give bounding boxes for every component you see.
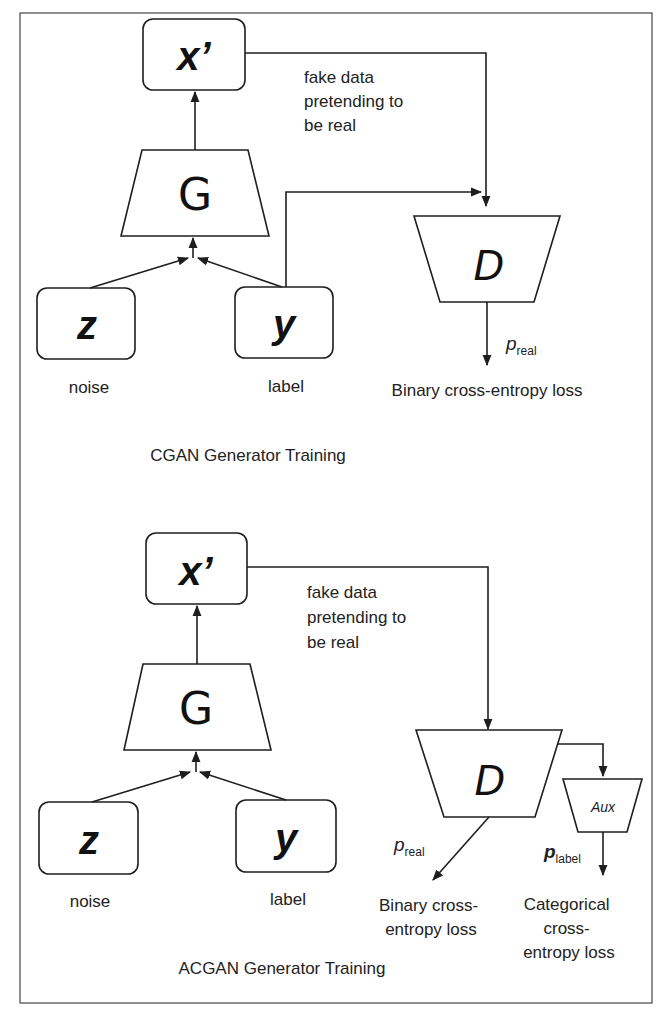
acgan-label-label: label xyxy=(270,890,306,909)
cgan-label-symbol: y xyxy=(271,302,297,346)
cgan-binary-loss-label: Binary cross-entropy loss xyxy=(392,381,583,400)
cgan-x-prime-symbol: x’ xyxy=(175,34,211,78)
acgan-noise-symbol: z xyxy=(78,818,99,862)
acgan-generator-symbol: G xyxy=(179,683,213,734)
acgan-x-prime-symbol: x’ xyxy=(177,549,213,593)
gan-diagram: x’ G fake data pretending to be real z n… xyxy=(0,0,669,1025)
cgan-panel-title: CGAN Generator Training xyxy=(150,446,346,465)
acgan-discriminator-symbol: D xyxy=(475,758,506,804)
cgan-noise-label: noise xyxy=(69,378,110,397)
cgan-label-label: label xyxy=(268,377,304,396)
cgan-discriminator-symbol: D xyxy=(474,243,505,289)
cgan-noise-symbol: z xyxy=(76,303,97,347)
acgan-noise-label: noise xyxy=(70,892,111,911)
acgan-auxiliary-symbol: Aux xyxy=(590,799,616,815)
acgan-label-symbol: y xyxy=(273,816,299,860)
cgan-generator-symbol: G xyxy=(178,169,212,220)
acgan-panel-title: ACGAN Generator Training xyxy=(179,959,386,978)
